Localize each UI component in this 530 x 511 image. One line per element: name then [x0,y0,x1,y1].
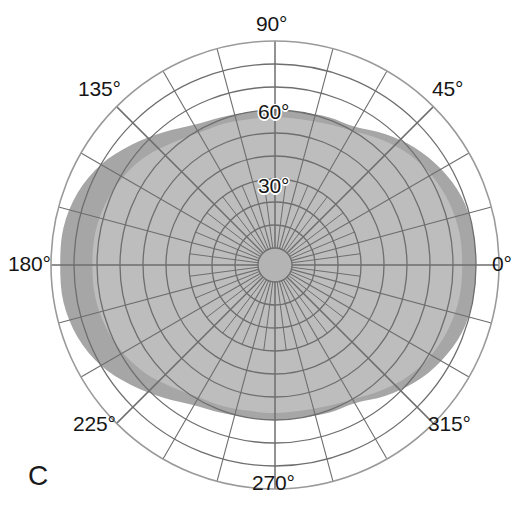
angular-tick-label-180: 180° [8,252,51,276]
polar-visual-field-figure: 0° 45° 90° 135° 180° 225° 270° 315° 30° … [0,0,530,511]
radial-tick-label-60: 60° [258,100,289,124]
angular-tick-label-90: 90° [256,12,287,36]
angular-tick-label-225: 225° [73,412,116,436]
panel-label: C [28,460,48,492]
radial-tick-label-30: 30° [258,174,289,198]
angular-tick-label-315: 315° [428,412,471,436]
angular-tick-label-45: 45° [432,77,463,101]
angular-tick-label-135: 135° [78,77,121,101]
angular-tick-label-0: 0° [492,252,512,276]
angular-tick-label-270: 270° [252,471,295,495]
